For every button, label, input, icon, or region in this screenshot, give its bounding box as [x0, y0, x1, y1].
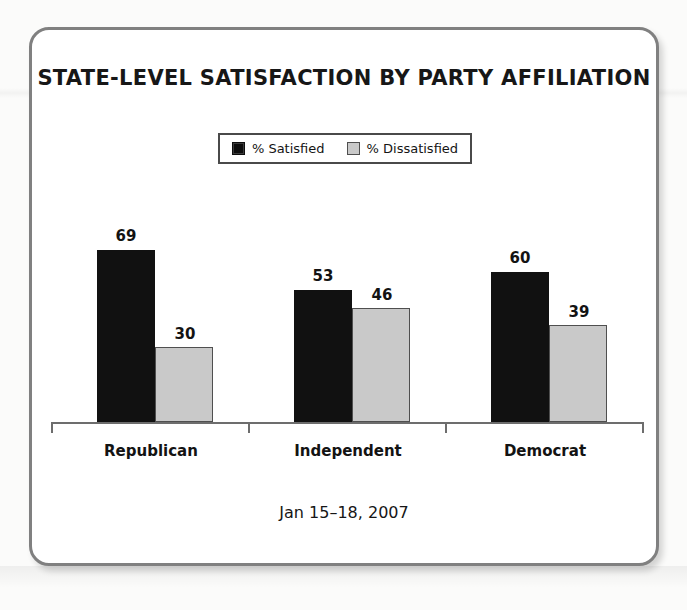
x-axis-label-republican: Republican	[51, 442, 251, 460]
bar-value-label: 60	[491, 249, 549, 267]
bar-democrat-satisfied[interactable]: 60	[491, 272, 549, 422]
bar-independent-satisfied[interactable]: 53	[294, 290, 352, 422]
bar-value-label: 39	[550, 303, 608, 321]
chart-card: STATE-LEVEL SATISFACTION BY PARTY AFFILI…	[29, 27, 659, 566]
plot-area: 69 30 53 46 60 3	[32, 30, 656, 563]
bar-group-independent: 53 46	[248, 90, 445, 422]
x-axis-label-democrat: Democrat	[445, 442, 645, 460]
bar-independent-dissatisfied[interactable]: 46	[352, 308, 410, 422]
bar-group-democrat: 60 39	[445, 90, 642, 422]
x-axis-tick	[445, 422, 447, 433]
bar-groups: 69 30 53 46 60 3	[51, 90, 644, 422]
page-scan-band-lower	[0, 566, 687, 588]
bar-democrat-dissatisfied[interactable]: 39	[549, 325, 607, 422]
x-axis-tick	[248, 422, 250, 433]
bar-value-label: 69	[97, 227, 155, 245]
bar-value-label: 30	[156, 325, 214, 343]
bar-value-label: 46	[353, 286, 411, 304]
bar-republican-dissatisfied[interactable]: 30	[155, 347, 213, 422]
x-axis-tick	[51, 422, 53, 433]
bar-republican-satisfied[interactable]: 69	[97, 250, 155, 422]
x-axis-tick	[642, 422, 644, 433]
x-axis-label-independent: Independent	[248, 442, 448, 460]
bar-value-label: 53	[294, 267, 352, 285]
chart-footer-date: Jan 15–18, 2007	[32, 503, 656, 522]
bar-group-republican: 69 30	[51, 90, 248, 422]
x-axis-line	[51, 422, 644, 424]
